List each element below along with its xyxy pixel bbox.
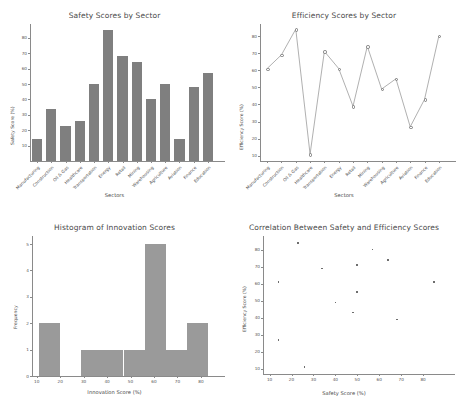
bar [46, 109, 56, 161]
bar [203, 73, 213, 161]
x-tick-label: 40 [327, 377, 343, 382]
x-tick [151, 161, 152, 163]
y-tick [28, 84, 30, 85]
x-tick-label: 20 [52, 379, 68, 384]
x-tick [37, 376, 38, 378]
bar [160, 84, 170, 161]
data-point [278, 281, 280, 283]
y-tick [30, 297, 32, 298]
x-tick-label: 30 [76, 379, 92, 384]
chart-title-correlation: Correlation Between Safety and Efficienc… [229, 223, 459, 232]
x-tick [270, 374, 271, 376]
x-tick [80, 161, 81, 163]
y-tick [28, 130, 30, 131]
y-tick [261, 301, 263, 302]
x-tick [292, 374, 293, 376]
x-tick [339, 161, 340, 163]
chart-title-safety: Safety Scores by Sector [0, 11, 229, 20]
x-tick-label: 20 [284, 377, 300, 382]
x-tick [131, 376, 132, 378]
axis-label-x-correlation: Safety Score (%) [229, 390, 459, 396]
x-axis-line [30, 161, 225, 162]
y-tick-label: 3 [16, 294, 29, 299]
y-tick-label: 40 [247, 315, 260, 320]
data-point [356, 291, 358, 293]
x-tick [335, 374, 336, 376]
data-point [366, 45, 369, 48]
data-point [280, 54, 283, 57]
x-tick [367, 161, 368, 163]
x-tick [425, 161, 426, 163]
x-tick [194, 161, 195, 163]
y-axis-line [30, 24, 31, 161]
y-tick-label: 60 [14, 66, 27, 71]
data-point [433, 281, 435, 283]
y-tick [28, 53, 30, 54]
y-tick-label: 70 [14, 51, 27, 56]
x-tick [439, 161, 440, 163]
y-tick-label: 2 [16, 321, 29, 326]
x-tick [201, 376, 202, 378]
y-tick [30, 270, 32, 271]
bar [146, 99, 156, 161]
y-axis-line [263, 236, 264, 374]
y-tick-label: 80 [247, 247, 260, 252]
axis-label-x-innovation: Innovation Score (%) [0, 389, 229, 395]
chart-panel-innovation-histogram: Histogram of Innovation Scores Frequency… [0, 204, 229, 408]
x-tick [396, 161, 397, 163]
x-tick [423, 374, 424, 376]
y-tick-label: 0 [16, 374, 29, 379]
x-tick [267, 161, 268, 163]
y-tick-label: 40 [244, 102, 257, 107]
data-point [352, 105, 355, 108]
y-tick-label: 10 [244, 153, 257, 158]
data-point [396, 319, 398, 321]
histogram-bar [166, 350, 187, 376]
y-tick [28, 69, 30, 70]
y-tick-label: 1 [16, 347, 29, 352]
plot-area-safety: 1020304050607080ManufacturingConstructio… [30, 24, 215, 161]
x-tick [208, 161, 209, 163]
chart-title-efficiency: Efficiency Scores by Sector [229, 11, 459, 20]
x-tick-label: 80 [193, 379, 209, 384]
x-tick [94, 161, 95, 163]
bar [174, 139, 184, 161]
y-tick-label: 5 [16, 242, 29, 247]
x-tick [310, 161, 311, 163]
histogram-bar [81, 350, 102, 376]
x-tick [60, 376, 61, 378]
y-tick [261, 318, 263, 319]
y-axis-line [32, 236, 33, 376]
x-axis-line [32, 376, 225, 377]
y-tick-label: 10 [14, 143, 27, 148]
data-point [409, 126, 412, 129]
histogram-bar [102, 350, 123, 376]
y-tick [28, 99, 30, 100]
x-tick-label: 70 [169, 379, 185, 384]
bar [75, 121, 85, 161]
bar [89, 84, 99, 161]
y-tick [30, 323, 32, 324]
y-tick-label: 70 [247, 264, 260, 269]
histogram-bar [187, 323, 208, 376]
y-tick [28, 38, 30, 39]
data-point [295, 28, 298, 31]
bar [103, 30, 113, 161]
chart-panel-safety-bar: Safety Scores by Sector Safety Score (%)… [0, 0, 229, 204]
y-tick-label: 70 [244, 51, 257, 56]
y-tick [261, 250, 263, 251]
y-tick-label: 60 [247, 281, 260, 286]
y-tick [261, 284, 263, 285]
x-tick-label: 80 [415, 377, 431, 382]
x-tick-label: 50 [349, 377, 365, 382]
efficiency-line-path [260, 24, 446, 161]
y-tick-label: 10 [247, 366, 260, 371]
y-tick-label: 20 [247, 349, 260, 354]
y-tick-label: 50 [14, 82, 27, 87]
x-tick [296, 161, 297, 163]
x-tick [154, 376, 155, 378]
figure-canvas: Safety Scores by Sector Safety Score (%)… [0, 0, 459, 408]
axis-label-y-correlation: Efficiency Score (%) [242, 286, 247, 332]
x-tick [123, 161, 124, 163]
x-tick [410, 161, 411, 163]
